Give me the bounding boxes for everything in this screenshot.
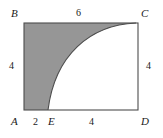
vertex-label-e: E	[48, 116, 55, 127]
shaded-region	[24, 23, 136, 110]
measure-top-6: 6	[76, 8, 81, 18]
vertex-label-c: C	[141, 8, 148, 19]
measure-left-4: 4	[9, 61, 14, 71]
vertex-label-b: B	[11, 8, 18, 19]
geometry-figure: B C A D E 6 4 4 2 4	[0, 0, 163, 138]
measure-bottom-ae-2: 2	[33, 117, 38, 127]
vertex-label-d: D	[141, 116, 149, 127]
figure-canvas	[0, 0, 163, 138]
measure-bottom-ed-4: 4	[89, 117, 94, 127]
measure-right-4: 4	[146, 61, 151, 71]
vertex-label-a: A	[11, 116, 18, 127]
